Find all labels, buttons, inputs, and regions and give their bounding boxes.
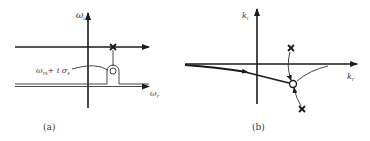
panel-a: ωi ωr ωrs+ i σs (a) <box>15 10 160 132</box>
k-r-label: kr <box>347 72 355 82</box>
k-i-label: ki <box>242 11 249 21</box>
pinch-point-circle <box>290 81 297 88</box>
omega-i-label: ωi <box>76 10 85 21</box>
caption-b: (b) <box>252 122 265 132</box>
point-leader-curve <box>72 66 108 70</box>
caption-a: (a) <box>43 122 55 132</box>
singular-point-circle <box>110 68 116 74</box>
lower-x-marker <box>299 106 305 112</box>
upper-x-marker <box>288 45 294 51</box>
deformed-contour-lower <box>245 72 289 83</box>
omega-r-label: ωr <box>150 89 160 99</box>
point-label: ωrs+ i σs <box>36 66 70 76</box>
deformed-contour-right <box>297 66 328 81</box>
figure-canvas: ωi ωr ωrs+ i σs (a) <box>0 0 370 141</box>
deformed-contour-arrow <box>185 65 247 72</box>
upper-migration-arc <box>288 52 291 80</box>
lower-migration-arc <box>294 88 301 106</box>
panel-b: ki kr (b) <box>185 9 357 132</box>
